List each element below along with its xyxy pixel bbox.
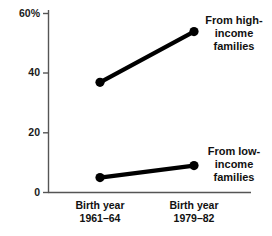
y-tick-label-40: 40 (0, 66, 40, 78)
y-tick-label-20: 20 (0, 126, 40, 138)
line-chart: 60% 40 20 0 Birth year 1961–64 Birth yea… (0, 0, 272, 236)
series-annotation-low-income-line2: income (196, 158, 272, 171)
series-annotation-low-income-line1: From low- (196, 145, 272, 158)
series-annotation-low-income-line3: families (196, 171, 272, 184)
series-annotation-low-income: From low- income families (196, 145, 272, 184)
x-category-label-1979-82: Birth year 1979–82 (144, 199, 244, 224)
y-tick-label-0: 0 (0, 186, 40, 198)
series-high-income (95, 27, 198, 87)
series-annotation-high-income-line2: income (196, 27, 272, 40)
series-high-income-line (100, 32, 194, 83)
x-category-1961-64-line2: 1961–64 (50, 212, 150, 225)
series-high-income-point-1961-64 (95, 78, 104, 87)
y-tick-label-60: 60% (0, 7, 40, 19)
x-category-1961-64-line1: Birth year (50, 199, 150, 212)
x-category-1979-82-line2: 1979–82 (144, 212, 244, 225)
series-annotation-high-income-line3: families (196, 40, 272, 53)
series-annotation-high-income-line1: From high- (196, 14, 272, 27)
series-annotation-high-income: From high- income families (196, 14, 272, 53)
series-low-income-line (100, 166, 194, 178)
x-category-label-1961-64: Birth year 1961–64 (50, 199, 150, 224)
series-low-income-point-1961-64 (95, 173, 104, 182)
x-category-1979-82-line1: Birth year (144, 199, 244, 212)
series-low-income (95, 161, 198, 182)
